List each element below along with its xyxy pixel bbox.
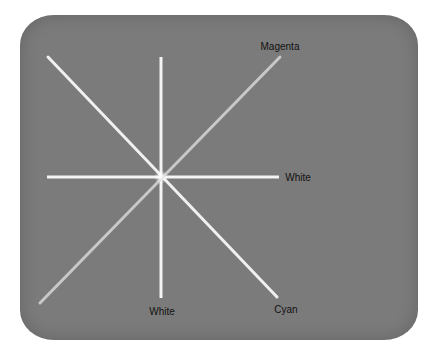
center-glow: [154, 170, 168, 184]
convergence-pattern: [0, 0, 439, 354]
label-magenta: Magenta: [261, 42, 300, 52]
label-white-bottom: White: [149, 307, 175, 317]
label-white-right: White: [285, 173, 311, 183]
label-cyan: Cyan: [274, 305, 297, 315]
